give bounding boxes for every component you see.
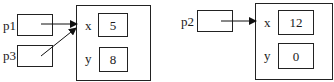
field-label-y: y bbox=[264, 48, 271, 63]
field-value-x: 5 bbox=[110, 18, 117, 33]
reference-label-p2: p2 bbox=[181, 14, 194, 29]
field-label-x: x bbox=[264, 15, 271, 30]
right-diagram: p2 x 12 y 0 bbox=[181, 4, 333, 80]
object-reference-diagram: p1 p3 x 5 y 8 p2 x 12 y 0 bbox=[0, 0, 334, 82]
field-label-x: x bbox=[85, 18, 92, 33]
reference-label-p3: p3 bbox=[3, 48, 16, 63]
field-value-x: 12 bbox=[290, 15, 303, 30]
reference-box-p3 bbox=[18, 46, 53, 67]
reference-box-p1 bbox=[18, 15, 53, 36]
left-diagram: p1 p3 x 5 y 8 bbox=[3, 6, 151, 81]
reference-label-p1: p1 bbox=[3, 18, 16, 33]
field-value-y: 0 bbox=[293, 49, 300, 64]
field-label-y: y bbox=[85, 51, 92, 66]
field-value-y: 8 bbox=[110, 52, 117, 67]
